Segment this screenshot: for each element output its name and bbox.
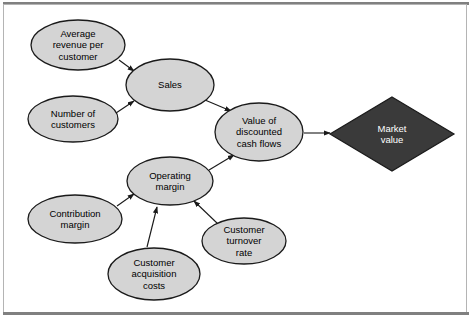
node-value-of-discounted-cash-flows[interactable] <box>215 103 303 161</box>
node-sales[interactable] <box>126 59 214 111</box>
edge-customers-to-sales <box>116 101 134 113</box>
node-average-revenue-per-customer[interactable] <box>31 20 125 70</box>
edge-arpc-to-sales <box>119 60 134 71</box>
node-customer-turnover-rate[interactable] <box>202 218 286 264</box>
node-number-of-customers[interactable] <box>28 96 118 142</box>
node-operating-margin[interactable] <box>127 157 213 205</box>
node-customer-acquisition-costs[interactable] <box>108 248 200 300</box>
edge-opmargin-to-dcf <box>209 155 234 170</box>
node-contribution-margin[interactable] <box>28 195 122 243</box>
diagram-canvas: Averagerevenue percustomerNumber ofcusto… <box>0 0 472 320</box>
edge-sales-to-dcf <box>205 100 231 111</box>
edge-turnover-to-opmargin <box>194 201 218 224</box>
diagram-graph <box>0 0 472 320</box>
edge-acquisition-to-opmargin <box>147 207 157 247</box>
nodes-layer <box>28 20 454 300</box>
node-market-value[interactable] <box>330 97 454 171</box>
edge-contribution-to-opmargin <box>117 194 134 206</box>
